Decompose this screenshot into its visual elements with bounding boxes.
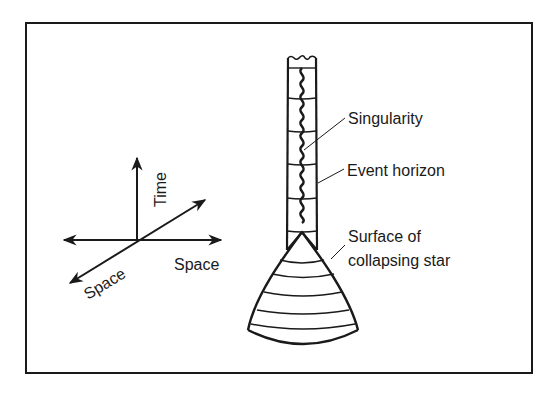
space-depth-label: Space	[81, 265, 129, 303]
singularity-leader	[304, 118, 345, 150]
singularity-label: Singularity	[348, 110, 423, 127]
time-axis-label: Time	[152, 172, 169, 207]
diagram-canvas: Time Space Space Singularity Event horiz…	[0, 0, 557, 394]
event-horizon-leader	[318, 169, 344, 183]
surface-label-line1: Surface of	[348, 228, 421, 245]
surface-label-line2: collapsing star	[348, 252, 451, 269]
figure-frame	[26, 23, 532, 373]
space-horizontal-label: Space	[174, 256, 219, 273]
event-horizon-label: Event horizon	[347, 162, 445, 179]
singularity-line	[300, 68, 303, 223]
surface-leader	[331, 245, 345, 259]
